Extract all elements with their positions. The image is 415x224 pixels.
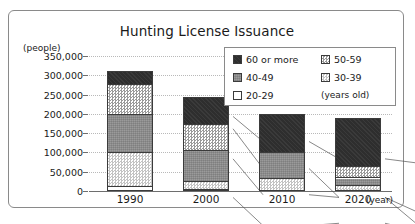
bar-segment-2000-30-39[interactable] xyxy=(184,182,228,190)
y-tickmark-100000 xyxy=(83,152,88,153)
page-title: Hunting License Issuance xyxy=(9,23,405,39)
y-tickmark-150000 xyxy=(83,133,88,134)
bar-segment-2020-40-49[interactable] xyxy=(336,179,380,187)
bar-segment-2000-60-or-more[interactable] xyxy=(184,98,228,125)
legend-item-40-49[interactable]: 40-49 xyxy=(233,72,274,83)
legend-item-50-59[interactable]: 50-59 xyxy=(321,54,362,65)
legend-swatch-40-49 xyxy=(233,73,242,82)
chart-legend: 60 or more 50-59 40-49 30-39 20-29 (year… xyxy=(224,47,396,106)
legend-swatch-30-39 xyxy=(321,73,330,82)
legend-label-60-or-more: 60 or more xyxy=(246,54,298,65)
bar-1990[interactable] xyxy=(107,71,153,191)
legend-swatch-20-29 xyxy=(233,91,242,100)
chart-frame: Hunting License Issuance (people) 350,00… xyxy=(8,10,404,208)
legend-label-30-39: 30-39 xyxy=(334,72,362,83)
legend-swatch-50-59 xyxy=(321,55,330,64)
bar-2010[interactable] xyxy=(259,114,305,191)
bar-segment-1990-20-29[interactable] xyxy=(108,187,152,191)
y-tickmark-300000 xyxy=(83,75,88,76)
legend-label-50-59: 50-59 xyxy=(334,54,362,65)
bar-segment-2000-40-49[interactable] xyxy=(184,151,228,182)
bar-segment-1990-40-49[interactable] xyxy=(108,115,152,154)
x-axis-tick-labels: 1990 2000 2010 2020 xyxy=(89,193,399,211)
bar-segment-2020-60-or-more[interactable] xyxy=(336,119,380,167)
bar-2000[interactable] xyxy=(183,97,229,192)
y-tickmark-200000 xyxy=(83,114,88,115)
bar-segment-1990-60-or-more[interactable] xyxy=(108,72,152,84)
bar-segment-2010-60-or-more[interactable] xyxy=(260,115,304,154)
bar-segment-2000-50-59[interactable] xyxy=(184,125,228,151)
x-tick-2000: 2000 xyxy=(193,193,220,205)
legend-label-40-49: 40-49 xyxy=(246,72,274,83)
legend-unit-label: (years old) xyxy=(321,90,369,100)
bar-segment-2010-30-39[interactable] xyxy=(260,179,304,191)
bar-2020[interactable] xyxy=(335,118,381,191)
legend-item-60-or-more[interactable]: 60 or more xyxy=(233,54,298,65)
x-tick-1990: 1990 xyxy=(117,193,144,205)
chart-page: Hunting License Issuance (people) 350,00… xyxy=(0,0,415,224)
bar-segment-2020-30-39[interactable] xyxy=(336,186,380,191)
y-tickmark-250000 xyxy=(83,95,88,96)
bar-segment-2020-50-59[interactable] xyxy=(336,167,380,179)
gridline-axis-zero xyxy=(89,191,392,192)
x-tick-2010: 2010 xyxy=(269,193,296,205)
bar-segment-2010-40-49[interactable] xyxy=(260,153,304,179)
bar-segment-1990-50-59[interactable] xyxy=(108,85,152,115)
bar-segment-2000-20-29[interactable] xyxy=(184,190,228,191)
legend-item-30-39[interactable]: 30-39 xyxy=(321,72,362,83)
legend-swatch-60-or-more xyxy=(233,55,242,64)
legend-item-20-29[interactable]: 20-29 xyxy=(233,90,274,101)
x-axis-unit-label: (year) xyxy=(366,195,393,205)
y-tickmark-0 xyxy=(83,191,88,192)
legend-label-20-29: 20-29 xyxy=(246,90,274,101)
y-tickmark-350000 xyxy=(83,56,88,57)
y-axis-tick-marks xyxy=(9,56,89,191)
bar-segment-1990-30-39[interactable] xyxy=(108,153,152,187)
y-tickmark-50000 xyxy=(83,172,88,173)
